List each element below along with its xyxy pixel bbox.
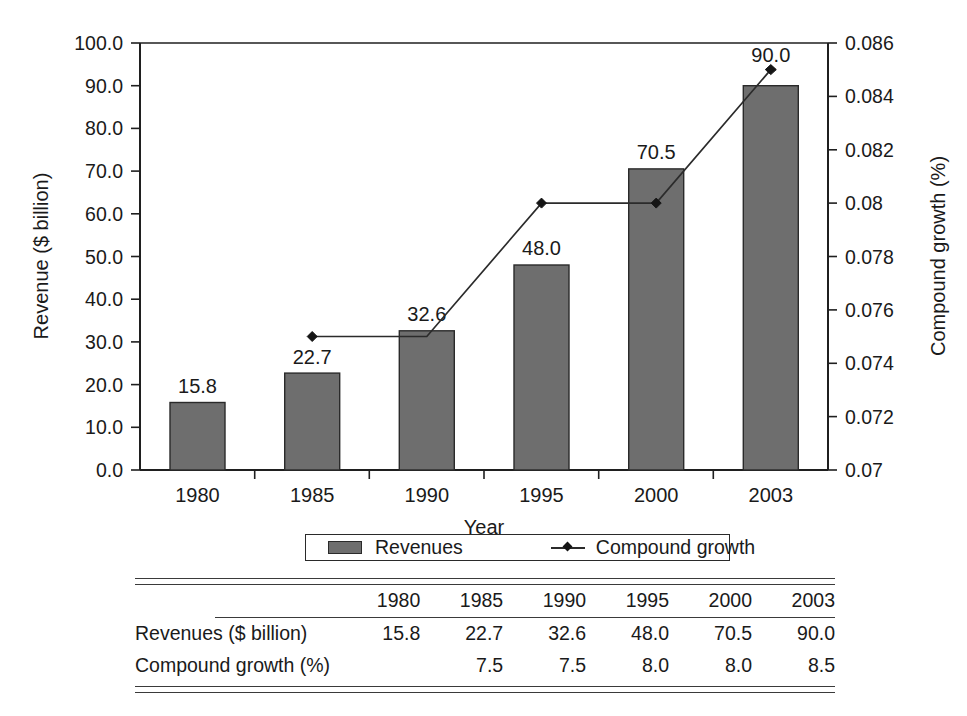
bar-1980: [170, 403, 225, 471]
data-table: 1980 1985 1990 1995 2000 2003: [135, 585, 835, 617]
table-cell-revenues-1980: 15.8: [337, 618, 420, 650]
right-axis-ticks: [828, 43, 837, 470]
legend-swatch-icon: [328, 541, 362, 554]
legend-label-compound-growth: Compound growth: [596, 536, 755, 559]
right-tick-label-6: 0.082: [845, 139, 894, 161]
data-table-container: 1980 1985 1990 1995 2000 2003 Revenues (…: [135, 578, 835, 693]
legend-line-marker-icon: [551, 541, 585, 554]
x-tick-label-1995: 1995: [519, 484, 564, 506]
table-row-label-revenues: Revenues ($ billion): [135, 618, 337, 650]
left-tick-label-8: 80.0: [85, 117, 123, 139]
table-top-rule: [135, 578, 835, 585]
right-tick-label-4: 0.078: [845, 246, 894, 268]
bar-label-2000: 70.5: [637, 141, 676, 163]
table-cell-revenues-1985: 22.7: [420, 618, 503, 650]
right-tick-label-7: 0.084: [845, 85, 894, 107]
left-tick-label-7: 70.0: [85, 160, 123, 182]
left-tick-label-6: 60.0: [85, 203, 123, 225]
x-tick-label-1985: 1985: [290, 484, 335, 506]
table-cell-growth-2000: 8.0: [669, 650, 752, 682]
left-tick-label-1: 10.0: [85, 416, 123, 438]
table-cell-revenues-2003: 90.0: [752, 618, 835, 650]
right-tick-label-3: 0.076: [845, 299, 894, 321]
table-header-1990: 1990: [503, 585, 586, 617]
table-header-row: 1980 1985 1990 1995 2000 2003: [135, 585, 835, 617]
right-tick-label-0: 0.07: [845, 459, 883, 481]
x-axis-ticks: [255, 470, 714, 479]
left-tick-label-0: 0.0: [96, 459, 123, 481]
table-header-2000: 2000: [669, 585, 752, 617]
y2-axis-title: Compound growth (%): [927, 156, 949, 356]
left-tick-label-10: 100.0: [74, 32, 123, 54]
bar-1985: [285, 373, 340, 470]
table-cell-growth-1995: 8.0: [586, 650, 669, 682]
table-header-1985: 1985: [420, 585, 503, 617]
chart-canvas: 0.0 10.0 20.0 30.0 40.0 50.0 60.0 70.0 8…: [0, 0, 967, 572]
table-header-2003: 2003: [752, 585, 835, 617]
table-header-1995: 1995: [586, 585, 669, 617]
table-header-rule: [215, 617, 835, 618]
table-row: Revenues ($ billion) 15.8 22.7 32.6 48.0…: [135, 618, 835, 650]
left-tick-label-4: 40.0: [85, 288, 123, 310]
table-corner-cell: [135, 585, 337, 617]
bar-label-1980: 15.8: [178, 375, 217, 397]
right-tick-label-2: 0.074: [845, 352, 894, 374]
left-tick-label-5: 50.0: [85, 246, 123, 268]
figure-container: 0.0 10.0 20.0 30.0 40.0 50.0 60.0 70.0 8…: [0, 0, 967, 716]
table-cell-revenues-1990: 32.6: [503, 618, 586, 650]
bar-1990: [399, 331, 454, 470]
x-tick-label-2000: 2000: [634, 484, 679, 506]
table-bottom-rule: [135, 686, 835, 693]
right-tick-label-1: 0.072: [845, 406, 894, 428]
bar-label-2003: 90.0: [751, 44, 790, 66]
table-cell-revenues-1995: 48.0: [586, 618, 669, 650]
table-header-rule-spacer: [135, 617, 215, 618]
y-axis-title: Revenue ($ billion): [30, 173, 52, 340]
x-tick-label-1990: 1990: [405, 484, 450, 506]
bar-2000: [629, 169, 684, 470]
table-cell-growth-1990: 7.5: [503, 650, 586, 682]
x-tick-label-1980: 1980: [175, 484, 220, 506]
bar-label-1995: 48.0: [522, 237, 561, 259]
right-tick-label-8: 0.086: [845, 32, 894, 54]
table-row-label-compound-growth: Compound growth (%): [135, 650, 337, 682]
table-cell-growth-2003: 8.5: [752, 650, 835, 682]
x-tick-label-2003: 2003: [749, 484, 794, 506]
bar-2003: [743, 86, 798, 470]
table-cell-revenues-2000: 70.5: [669, 618, 752, 650]
chart-legend: Revenues Compound growth: [305, 534, 730, 561]
table-header-1980: 1980: [337, 585, 420, 617]
right-tick-label-5: 0.08: [845, 192, 883, 214]
left-tick-label-9: 90.0: [85, 75, 123, 97]
bar-1995: [514, 265, 569, 470]
table-row: Compound growth (%) 7.5 7.5 8.0 8.0 8.5: [135, 650, 835, 682]
legend-item-revenues: Revenues: [328, 535, 463, 560]
table-header-rule-wrap: [135, 617, 835, 618]
legend-item-compound-growth: Compound growth: [551, 535, 755, 560]
data-table-body: Revenues ($ billion) 15.8 22.7 32.6 48.0…: [135, 618, 835, 682]
legend-label-revenues: Revenues: [375, 536, 463, 559]
left-tick-label-3: 30.0: [85, 331, 123, 353]
bar-label-1985: 22.7: [293, 346, 332, 368]
left-tick-label-2: 20.0: [85, 374, 123, 396]
table-cell-growth-1985: 7.5: [420, 650, 503, 682]
left-axis-ticks: [131, 43, 140, 470]
table-cell-growth-1980: [337, 650, 420, 682]
